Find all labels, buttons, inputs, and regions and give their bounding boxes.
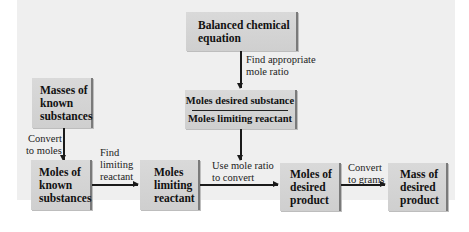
box-text-line: reactant [154,192,195,205]
label-line: to grams [348,174,384,186]
box-text-line: product [290,194,329,207]
box-text-line: limiting [154,179,192,192]
box-moles-desired: Moles of desired product [280,163,341,211]
label-line: to convert [212,172,274,184]
box-text-line: desired [400,181,436,194]
label-convert-grams: Convert to grams [348,162,384,186]
arrow-convert-moles [63,128,65,160]
box-text-line: product [400,194,439,207]
label-find-limiting: Find limiting reactant [100,147,133,183]
box-text-line: substances [40,110,92,123]
box-text-line: known [40,97,73,110]
label-line: reactant [100,171,133,183]
box-masses-known: Masses of known substances [32,78,93,128]
label-line: Convert [348,162,384,174]
label-find-ratio: Find appropriate mole ratio [246,54,316,78]
label-use-ratio: Use mole ratio to convert [212,160,274,184]
label-convert-moles: Convert to moles [25,133,62,157]
box-text-line: substances [39,192,91,205]
box-text-line: equation [198,32,241,45]
arrow-find-ratio [240,51,242,88]
label-line: Find appropriate [246,54,316,66]
box-text-line: Balanced chemical [198,19,290,32]
label-line: mole ratio [246,66,316,78]
label-line: Find [100,147,133,159]
label-line: to moles [25,145,62,157]
fraction-bar [192,110,288,111]
arrow-ratio-to-flow [240,129,242,160]
box-mole-ratio: Moles desired substance Moles limiting r… [185,90,297,129]
box-text-line: known [39,179,72,192]
box-text-line: Moles of [290,168,332,181]
arrow-use-ratio [200,184,278,186]
ratio-numerator: Moles desired substance [186,95,294,107]
label-line: Use mole ratio [212,160,274,172]
box-text-line: Moles [154,166,183,179]
label-line: Convert [25,133,62,145]
box-text-line: Moles of [39,166,81,179]
box-text-line: desired [290,181,326,194]
box-text-line: Mass of [400,168,438,181]
box-moles-limiting: Moles limiting reactant [140,160,200,210]
ratio-denominator: Moles limiting reactant [188,113,292,125]
box-mass-desired: Mass of desired product [388,163,448,211]
box-text-line: Masses of [40,84,88,97]
box-balanced-equation: Balanced chemical equation [186,12,298,51]
arrow-find-limiting [92,184,138,186]
box-moles-known: Moles of known substances [31,160,92,210]
label-line: limiting [100,159,133,171]
